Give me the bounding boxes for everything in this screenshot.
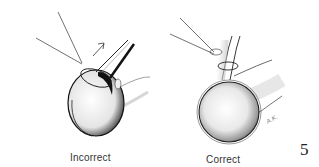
up-right-arrow-icon bbox=[93, 43, 104, 56]
caption-correct: Correct bbox=[206, 154, 240, 165]
caption-incorrect: Incorrect bbox=[70, 152, 111, 163]
correct-panel bbox=[170, 18, 282, 144]
incorrect-panel bbox=[36, 12, 150, 136]
figure-illustration bbox=[0, 0, 319, 167]
figure-number: 5 bbox=[300, 140, 309, 160]
